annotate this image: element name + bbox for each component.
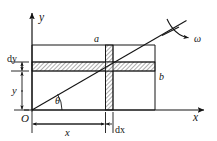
diagram-figure: y x O a b θ ω dy y x dx [0, 0, 217, 141]
y-dimension-label: y [11, 85, 17, 96]
plate-width-label: a [94, 33, 99, 44]
x-axis-label: x [192, 111, 199, 123]
y-axis-label: y [38, 11, 45, 24]
dy-label: dy [7, 53, 17, 64]
strip-borders [32, 45, 155, 110]
angular-velocity-label: ω [194, 33, 201, 44]
hatched-strips [32, 45, 155, 110]
dx-strip [106, 45, 114, 110]
dy-strip [32, 62, 155, 71]
dx-label: dx [115, 124, 125, 135]
angle-label: θ [55, 95, 60, 106]
x-dimension-label: x [64, 127, 70, 138]
plate-rectangle [32, 45, 155, 110]
diagram-canvas: y x O a b θ ω dy y x dx [0, 0, 217, 141]
horizontal-dimension-group [32, 112, 113, 133]
origin-label: O [21, 112, 29, 124]
plate-height-label: b [159, 71, 164, 82]
